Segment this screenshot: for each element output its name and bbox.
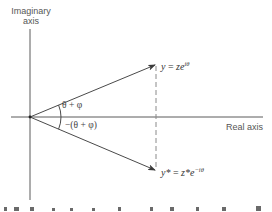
angle-arc-lower bbox=[59, 117, 61, 129]
vector-y-eq: = bbox=[165, 61, 176, 72]
imaginary-axis-label-line2: axis bbox=[8, 16, 54, 26]
imaginary-axis-label-line1: Imaginary bbox=[8, 6, 54, 16]
angle-label-lower: −(θ + φ) bbox=[65, 120, 97, 130]
origin-point bbox=[29, 116, 32, 119]
vector-y-equation: y = zeiθ bbox=[161, 60, 189, 72]
vector-y-conjugate-base: z*e bbox=[181, 167, 194, 178]
diagram-canvas bbox=[0, 0, 272, 212]
vector-y-conjugate-eq: = bbox=[170, 167, 181, 178]
vector-y-exponent: iθ bbox=[184, 60, 189, 67]
complex-plane-diagram: Imaginary axis Real axis y = zeiθ y* = z… bbox=[0, 0, 272, 212]
vector-y-conjugate-exponent: −iθ bbox=[194, 166, 203, 173]
angle-label-upper: θ + φ bbox=[62, 100, 82, 110]
vector-y bbox=[30, 65, 155, 117]
vector-y-conjugate-equation: y* = z*e−iθ bbox=[161, 166, 204, 178]
real-axis-label: Real axis bbox=[226, 122, 263, 132]
imaginary-axis-label: Imaginary axis bbox=[8, 6, 54, 26]
cropped-caption-fragment bbox=[0, 206, 272, 212]
angle-arc-upper bbox=[59, 105, 61, 117]
